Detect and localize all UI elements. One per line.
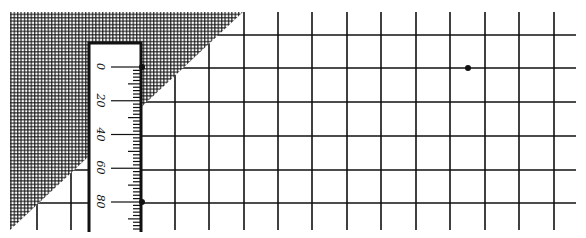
grid-diagram: 020406080 (0, 0, 586, 238)
ruler-label: 0 (95, 57, 106, 77)
ruler-bottom-point (139, 199, 145, 205)
grid-point (465, 65, 471, 71)
diagram-canvas (0, 0, 586, 238)
ruler-label: 40 (95, 125, 106, 145)
ruler-label: 80 (95, 192, 106, 212)
ruler-label: 60 (95, 158, 106, 178)
ruler-top-point (139, 64, 145, 70)
marked-points (139, 64, 471, 205)
ruler-label: 20 (95, 91, 106, 111)
